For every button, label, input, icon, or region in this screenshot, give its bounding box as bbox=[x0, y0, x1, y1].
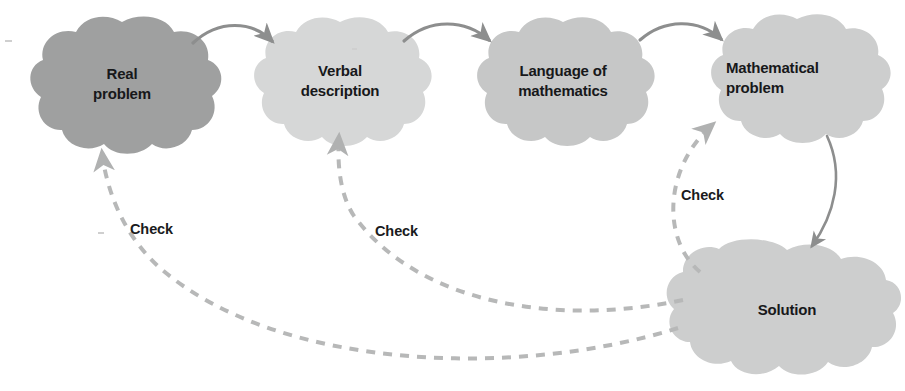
edge-solution-to-real-check bbox=[102, 152, 678, 358]
cloud-shape-verbal-description bbox=[254, 17, 432, 146]
cloud-shape-mathematical-problem bbox=[711, 14, 891, 143]
cloud-shape-solution bbox=[667, 239, 901, 374]
node-verbal-description[interactable] bbox=[254, 17, 432, 146]
edge-verbal-to-language bbox=[404, 24, 489, 41]
cloud-shape-real-problem bbox=[30, 17, 221, 154]
cloud-shape-language-of-mathematics bbox=[477, 17, 655, 146]
scan-speck bbox=[98, 232, 104, 234]
diagram-svg bbox=[0, 0, 905, 391]
diagram-canvas: Real problem Verbal description Language… bbox=[0, 0, 905, 391]
edge-language-to-mathematical bbox=[640, 24, 721, 40]
node-solution[interactable] bbox=[667, 239, 901, 374]
node-real-problem[interactable] bbox=[30, 17, 221, 154]
edge-solution-to-verbal-check bbox=[338, 136, 683, 311]
scan-speck bbox=[352, 48, 357, 50]
node-mathematical-problem[interactable] bbox=[711, 14, 891, 143]
node-language-of-mathematics[interactable] bbox=[477, 17, 655, 146]
edge-real-to-verbal bbox=[193, 26, 272, 44]
scan-speck bbox=[5, 40, 12, 42]
edge-mathematical-to-solution bbox=[812, 136, 836, 246]
